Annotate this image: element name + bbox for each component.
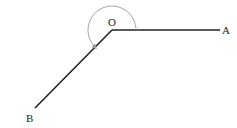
label-a: A: [222, 24, 230, 36]
ray-ob: [35, 30, 112, 108]
label-b: B: [26, 112, 33, 124]
diagram-canvas: O A B: [0, 0, 237, 128]
label-o: O: [108, 16, 116, 28]
